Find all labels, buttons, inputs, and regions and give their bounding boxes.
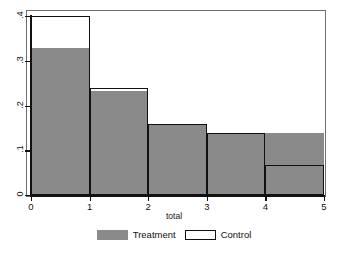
x-axis-title: total (0, 211, 348, 221)
y-tick-label: 0 (15, 187, 25, 201)
histogram-figure: 0.1.2.3.4 012345 total Treatment Control (0, 0, 348, 259)
bar-control (265, 165, 324, 195)
legend-item-treatment: Treatment (97, 230, 176, 240)
plot-area (31, 16, 324, 195)
chart-legend: Treatment Control (0, 230, 348, 240)
y-tick-label: .1 (15, 142, 25, 156)
y-axis-line (30, 15, 32, 196)
control-bar-group (31, 16, 324, 195)
legend-item-control: Control (185, 230, 252, 240)
y-tick-mark (25, 195, 30, 196)
y-tick-label: .2 (15, 98, 25, 112)
bar-control (90, 88, 149, 195)
y-tick-mark (25, 16, 30, 17)
bar-control (31, 16, 90, 195)
legend-label-control: Control (221, 230, 252, 240)
y-tick-mark (25, 150, 30, 151)
y-tick-mark (25, 106, 30, 107)
control-swatch-icon (185, 230, 216, 240)
bar-control (207, 133, 266, 195)
bar-control (148, 124, 207, 195)
y-tick-mark (25, 61, 30, 62)
y-tick-label: .3 (15, 53, 25, 67)
x-axis-line (30, 195, 325, 197)
treatment-swatch-icon (97, 230, 128, 240)
legend-label-treatment: Treatment (133, 230, 176, 240)
y-tick-label: .4 (15, 8, 25, 22)
